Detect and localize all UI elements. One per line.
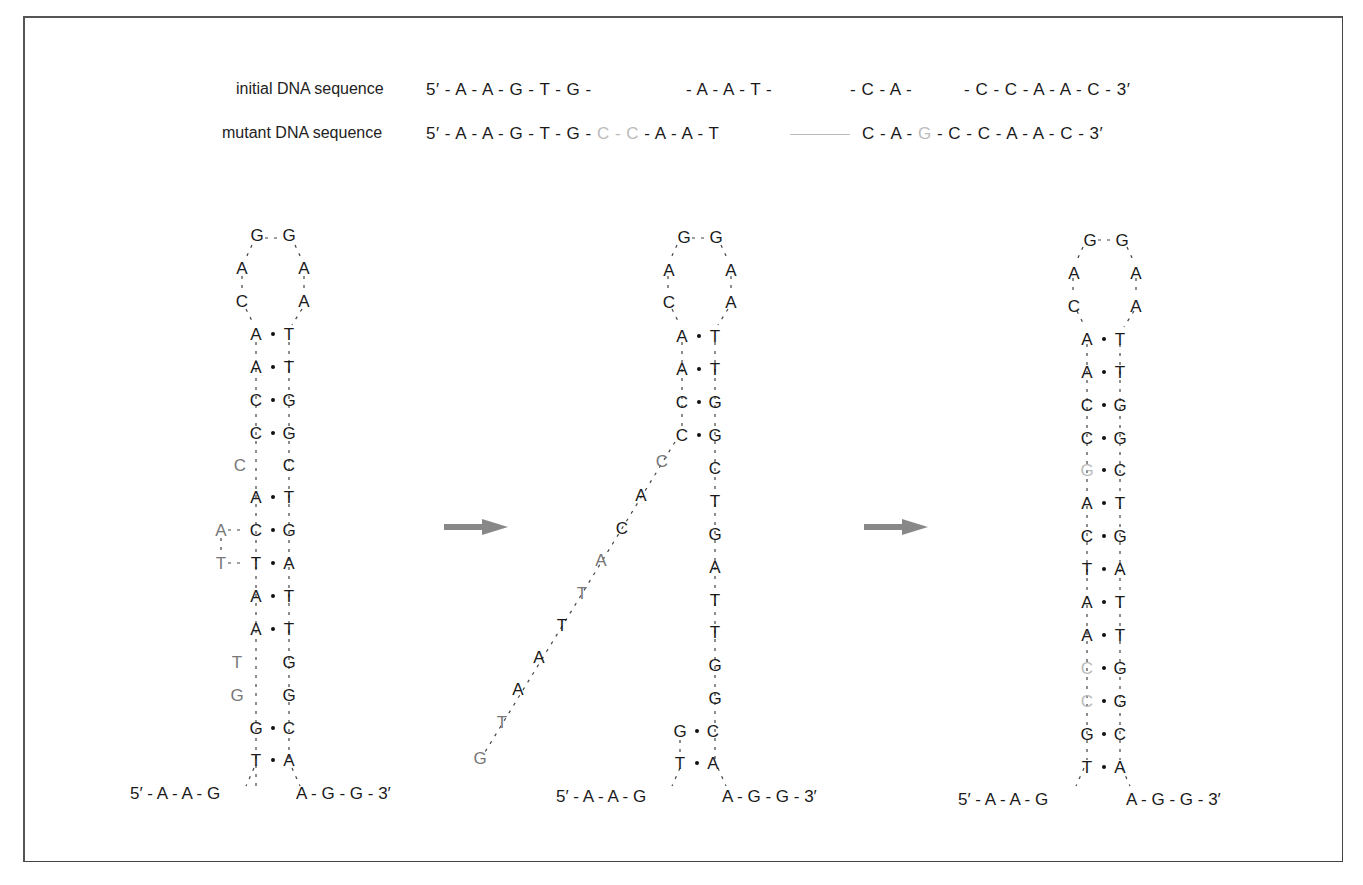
stem-base-right: G (707, 427, 723, 444)
unpaired-base: G (229, 687, 245, 704)
stem-base-left: T (248, 752, 264, 769)
stem-base-right: T (1112, 364, 1128, 381)
pair-dot (271, 431, 275, 435)
stem-base-right: T (281, 359, 297, 376)
loop-base: A (296, 260, 312, 277)
single-strand-base: T (554, 617, 570, 634)
loop-base: A (1128, 265, 1144, 282)
pair-dot (271, 561, 275, 565)
stem-base-left: T (248, 555, 264, 572)
stem-base-right: G (281, 522, 297, 539)
stem-base-right: T (281, 326, 297, 343)
stem-base-right: C (705, 723, 721, 740)
loop-base: A (661, 262, 677, 279)
pair-dot (1102, 699, 1106, 703)
loop-base: G (1082, 232, 1098, 249)
stem-base-right: G (1112, 430, 1128, 447)
loop-base: G (676, 229, 692, 246)
pair-dot (697, 400, 701, 404)
loop-base: A (723, 294, 739, 311)
stem-base-left: G (672, 723, 688, 740)
stem-base-right: T (281, 621, 297, 638)
unpaired-base: G (281, 654, 297, 671)
three-prime-tail: A - G - G - 3′ (722, 787, 817, 807)
unpaired-base: T (707, 493, 723, 510)
pair-dot (1102, 370, 1106, 374)
unpaired-base: G (707, 657, 723, 674)
loop-base: G (249, 227, 265, 244)
stem-base-left: A (1079, 495, 1095, 512)
pair-dot (1102, 337, 1106, 341)
stem-base-right: G (707, 394, 723, 411)
single-strand-base: A (531, 649, 547, 666)
stem-base-left: G (248, 720, 264, 737)
pair-dot (1102, 403, 1106, 407)
pair-dot (1102, 732, 1106, 736)
unpaired-base: G (281, 687, 297, 704)
pair-dot (1102, 600, 1106, 604)
single-strand-base: G (472, 750, 488, 767)
stem-base-left: T (1079, 759, 1095, 776)
three-prime-tail: A - G - G - 3′ (1126, 790, 1221, 810)
stem-base-right: A (281, 752, 297, 769)
pair-dot (697, 334, 701, 338)
pair-dot (1102, 666, 1106, 670)
unpaired-base: C (707, 460, 723, 477)
single-strand-base: C (654, 453, 670, 470)
stem-base-left: A (248, 359, 264, 376)
stem-base-left: A (248, 489, 264, 506)
single-strand-base: A (510, 681, 526, 698)
stem-base-right: C (1112, 726, 1128, 743)
stem-base-right: C (1112, 462, 1128, 479)
stem-base-right: G (1112, 693, 1128, 710)
stem-base-left: C (674, 394, 690, 411)
pair-dot (271, 398, 275, 402)
stem-base-right: T (1112, 594, 1128, 611)
arrow-right-icon (444, 518, 508, 536)
single-strand-base: A (593, 552, 609, 569)
stem-base-right: G (281, 392, 297, 409)
single-strand-base: T (494, 714, 510, 731)
stem-base-left: C (1079, 528, 1095, 545)
stem-base-left: T (1079, 561, 1095, 578)
stem-base-right: G (1112, 528, 1128, 545)
loop-base: A (296, 293, 312, 310)
pair-dot (1102, 468, 1106, 472)
stem-base-right: C (281, 720, 297, 737)
single-strand-base: C (614, 520, 630, 537)
stem-base-left: C (248, 425, 264, 442)
stem-base-left: A (248, 326, 264, 343)
pair-dot (271, 332, 275, 336)
loop-base: G (708, 229, 724, 246)
pair-dot (1102, 765, 1106, 769)
mutated-base: C (1079, 693, 1095, 710)
stem-base-left: A (248, 621, 264, 638)
pair-dot (697, 433, 701, 437)
three-prime-tail: A - G - G - 3′ (296, 784, 391, 804)
bulge-base: A (213, 522, 229, 539)
five-prime-tail: 5′ - A - A - G (958, 790, 1048, 810)
five-prime-tail: 5′ - A - A - G (130, 784, 220, 804)
loop-base: A (1128, 298, 1144, 315)
pair-dot (271, 726, 275, 730)
unpaired-base: G (707, 690, 723, 707)
unpaired-base: C (281, 457, 297, 474)
stem-base-left: C (248, 522, 264, 539)
stem-base-left: C (1079, 397, 1095, 414)
unpaired-base: G (707, 526, 723, 543)
stem-base-left: A (1079, 627, 1095, 644)
loop-base: G (281, 227, 297, 244)
pair-dot (1102, 567, 1106, 571)
stem-base-right: T (707, 361, 723, 378)
stem-base-right: A (1112, 561, 1128, 578)
stem-base-right: G (1112, 660, 1128, 677)
loop-base: C (234, 293, 250, 310)
stem-base-left: T (672, 755, 688, 772)
five-prime-tail: 5′ - A - A - G (556, 787, 646, 807)
loop-base: A (723, 262, 739, 279)
stem-base-left: A (674, 328, 690, 345)
loop-base: G (1114, 232, 1130, 249)
arrow-right-icon (864, 518, 928, 536)
pair-dot (271, 758, 275, 762)
loop-base: A (234, 260, 250, 277)
